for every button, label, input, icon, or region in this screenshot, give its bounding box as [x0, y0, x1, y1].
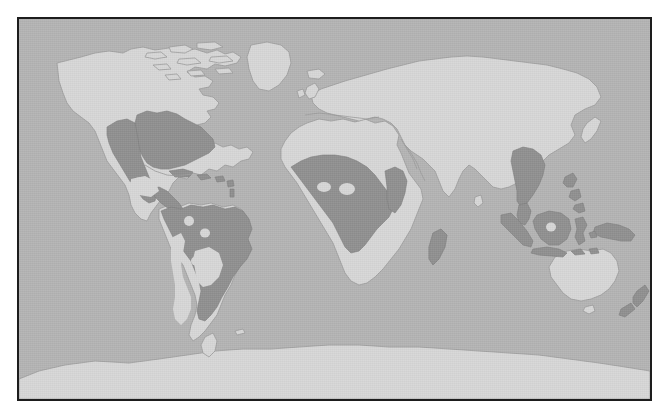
gap-amazon-north — [184, 216, 194, 226]
page-root — [0, 0, 668, 417]
gap-borneo-inlier — [546, 223, 556, 232]
map-figure-frame — [17, 17, 652, 401]
gap-amazon-central — [200, 229, 210, 238]
gap-africa-central-inlier — [339, 183, 355, 195]
gap-africa-west-inlier — [317, 182, 331, 192]
world-map — [19, 19, 650, 399]
